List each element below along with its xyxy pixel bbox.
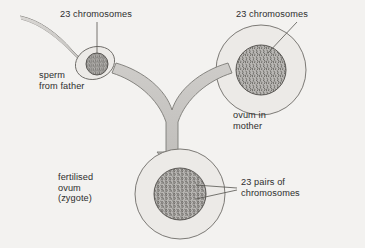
ovum-nucleus bbox=[236, 45, 286, 95]
diagram-page: 23 chromosomes sperm from father 23 chro… bbox=[0, 0, 365, 248]
label-zygote-chromosomes: 23 pairs of chromosomes bbox=[241, 177, 300, 198]
fertilisation-diagram bbox=[0, 0, 365, 248]
label-sperm-cell: sperm from father bbox=[39, 70, 85, 91]
label-sperm-chromosomes: 23 chromosomes bbox=[60, 9, 132, 20]
zygote-nucleus bbox=[154, 168, 206, 220]
label-ovum-chromosomes: 23 chromosomes bbox=[236, 9, 308, 20]
sperm-nucleus bbox=[86, 53, 108, 75]
label-ovum-cell: ovum in mother bbox=[233, 110, 266, 131]
label-zygote-cell: fertilised ovum (zygote) bbox=[58, 172, 93, 204]
